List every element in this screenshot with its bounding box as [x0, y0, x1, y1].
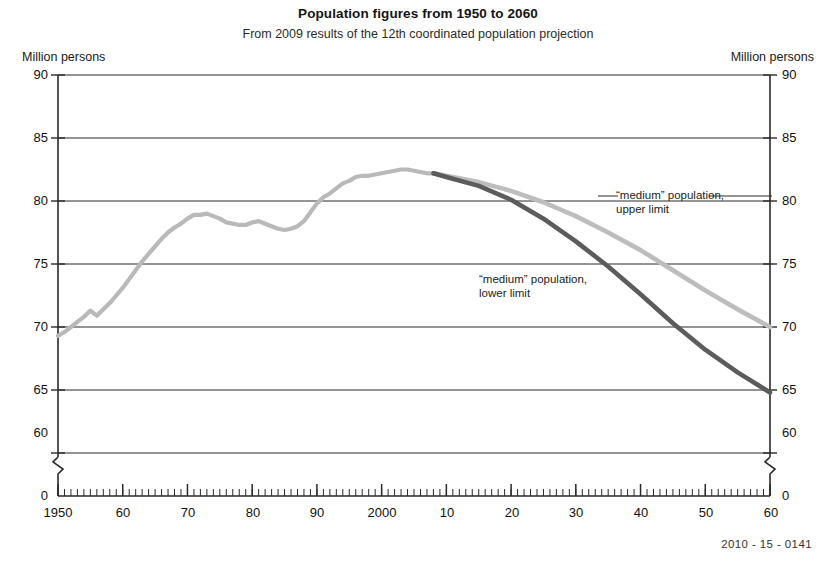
- figure-code: 2010 - 15 - 0141: [721, 538, 812, 550]
- annotation-upper-limit: “medium” population, upper limit: [616, 188, 724, 217]
- x-minor-tick-marks: [58, 489, 770, 496]
- annotation-upper-limit-line1: “medium” population,: [616, 189, 724, 201]
- annotation-lower-limit: “medium” population, lower limit: [479, 272, 587, 301]
- chart-canvas: [0, 0, 836, 574]
- annotation-lower-limit-line2: lower limit: [479, 287, 530, 299]
- series-historical-line: [58, 170, 433, 336]
- annotation-upper-limit-line2: upper limit: [616, 203, 669, 215]
- annotation-lower-limit-line1: “medium” population,: [479, 273, 587, 285]
- population-chart: Population figures from 1950 to 2060 Fro…: [0, 0, 836, 574]
